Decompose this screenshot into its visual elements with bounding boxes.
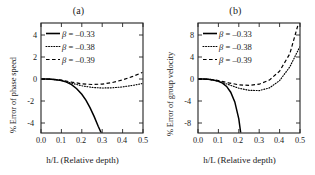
panel-b-series — [198, 26, 300, 136]
panel-b-curve-solid — [198, 79, 241, 135]
panel-a-plot — [0, 0, 157, 175]
panel-b-legend-samples — [203, 34, 217, 60]
panel-a-legend-samples — [46, 34, 60, 60]
panel-b: (b) % Error of group velocity h/L (Relat… — [157, 0, 314, 175]
figure-container: (a) % Error of phase speed h/L (Relative… — [0, 0, 315, 175]
panel-a-curve-dashed — [41, 72, 143, 84]
panel-b-plot — [157, 0, 314, 175]
panel-b-axes-frame — [198, 23, 300, 133]
panel-b-x-ticks — [198, 23, 300, 133]
panel-a-x-ticks — [41, 23, 143, 133]
panel-a: (a) % Error of phase speed h/L (Relative… — [0, 0, 157, 175]
panel-b-curve-dotted — [198, 46, 300, 90]
panel-a-curve-dotted — [41, 79, 143, 88]
panel-b-y-ticks — [198, 35, 300, 123]
panel-a-axes-frame — [41, 23, 143, 133]
panel-a-series — [41, 72, 143, 135]
